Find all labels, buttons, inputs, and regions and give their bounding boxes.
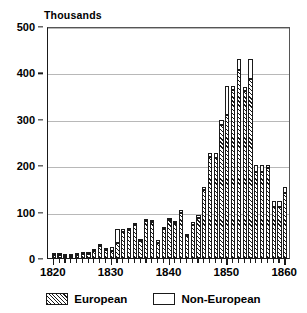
x-tick-mark <box>64 259 65 263</box>
bar-segment-european <box>225 115 229 258</box>
bar-group <box>133 223 137 258</box>
bar-group <box>208 153 212 258</box>
x-tick-mark <box>116 259 117 263</box>
bar-segment-non-european <box>127 228 131 230</box>
bar-segment-non-european <box>219 120 223 125</box>
bar-segment-european <box>283 193 287 258</box>
bar-segment-european <box>237 70 241 258</box>
bar-segment-european <box>214 158 218 258</box>
bar-segment-non-european <box>214 153 218 158</box>
bar-segment-non-european <box>98 244 102 246</box>
bar-segment-non-european <box>115 229 119 242</box>
legend-swatch-hatched <box>46 293 68 305</box>
x-tick-mark <box>226 259 227 265</box>
bar-group <box>185 234 189 258</box>
bar-group <box>191 222 195 258</box>
bar-segment-european <box>260 172 264 258</box>
bar-group <box>225 86 229 258</box>
x-tick-mark <box>197 259 198 263</box>
bar-segment-non-european <box>81 252 85 254</box>
bar-group <box>196 215 200 258</box>
x-tick-label: 1830 <box>98 266 124 278</box>
x-tick-mark <box>105 259 106 263</box>
bar-segment-non-european <box>277 201 281 207</box>
bar-segment-european <box>104 250 108 258</box>
chart-title: Thousands <box>44 9 102 21</box>
bar-segment-non-european <box>156 240 160 242</box>
bar-segment-non-european <box>266 165 270 167</box>
bar-segment-non-european <box>237 59 241 69</box>
bar-segment-european <box>219 125 223 258</box>
bar-group <box>272 201 276 258</box>
bar-segment-european <box>179 213 183 258</box>
bar-group <box>243 87 247 258</box>
x-tick-label: 1840 <box>156 266 182 278</box>
bar-segment-european <box>231 90 235 258</box>
x-tick-mark <box>284 259 285 265</box>
x-tick-mark <box>99 259 100 263</box>
bar-group <box>162 228 166 258</box>
bar-segment-non-european <box>75 253 79 255</box>
bar-segment-european <box>63 256 67 258</box>
bar-group <box>92 250 96 258</box>
x-tick-mark <box>111 259 112 265</box>
bar-group <box>127 228 131 258</box>
x-tick-mark <box>250 259 251 263</box>
bar-group <box>167 219 171 258</box>
y-tick-mark <box>38 258 43 259</box>
bar-segment-non-european <box>167 218 171 220</box>
bar-segment-european <box>98 246 102 258</box>
bar-group <box>254 165 258 258</box>
bar-group <box>231 86 235 258</box>
bar-segment-european <box>185 236 189 258</box>
x-tick-mark <box>88 259 89 263</box>
bar-group <box>138 239 142 258</box>
bar-segment-non-european <box>225 86 229 114</box>
x-tick-mark <box>209 259 210 263</box>
bar-group <box>150 221 154 258</box>
bar-group <box>81 253 85 258</box>
immigration-bar-chart: Thousands 0100200300400500 1820183018401… <box>0 0 307 313</box>
bar-segment-non-european <box>272 201 276 207</box>
bar-segment-european <box>133 225 137 258</box>
bar-group <box>52 254 56 258</box>
bar-series-container <box>48 28 289 258</box>
x-tick-mark <box>128 259 129 263</box>
bar-segment-non-european <box>185 234 189 236</box>
y-tick-mark <box>38 26 43 27</box>
bar-segment-non-european <box>133 223 137 225</box>
y-tick-label: 100 <box>17 207 35 219</box>
y-tick-mark <box>38 73 43 74</box>
bar-group <box>214 153 218 258</box>
bar-segment-european <box>138 241 142 258</box>
bar-group <box>277 201 281 258</box>
bar-segment-european <box>57 255 61 258</box>
bar-group <box>156 240 160 258</box>
x-tick-mark <box>134 259 135 263</box>
x-tick-mark <box>82 259 83 263</box>
legend-label: Non-European <box>181 293 260 305</box>
bar-segment-european <box>196 218 200 258</box>
y-tick-mark <box>38 166 43 167</box>
x-tick-mark <box>273 259 274 263</box>
x-tick-mark <box>278 259 279 263</box>
bar-segment-european <box>266 168 270 258</box>
bar-segment-european <box>69 256 73 258</box>
x-tick-mark <box>255 259 256 263</box>
bar-segment-european <box>173 223 177 258</box>
x-tick-mark <box>53 259 54 265</box>
x-tick-mark <box>232 259 233 263</box>
bar-segment-european <box>144 221 148 258</box>
bar-segment-european <box>115 243 119 258</box>
bar-group <box>144 220 148 259</box>
bar-group <box>237 59 241 258</box>
bar-segment-non-european <box>104 248 108 250</box>
legend-entry: Non-European <box>153 293 260 305</box>
bar-segment-non-european <box>121 229 125 232</box>
bar-segment-non-european <box>138 239 142 241</box>
bar-segment-non-european <box>92 249 96 251</box>
bar-segment-non-european <box>191 222 195 225</box>
bar-segment-non-european <box>162 227 166 229</box>
x-tick-mark <box>163 259 164 263</box>
x-tick-mark <box>174 259 175 263</box>
